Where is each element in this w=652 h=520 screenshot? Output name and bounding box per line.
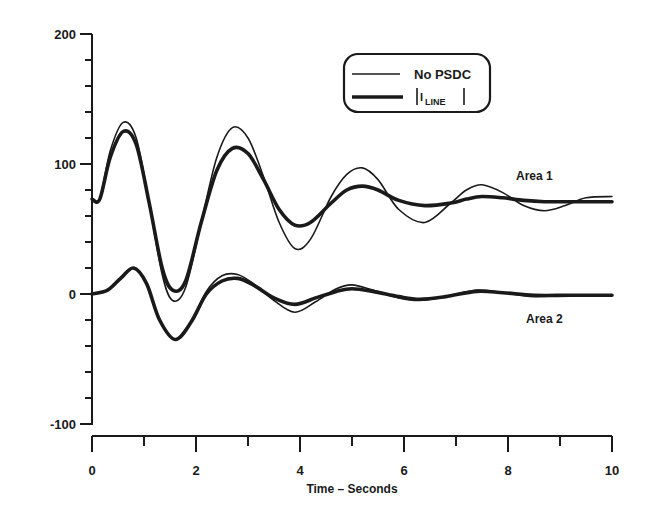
y-tick-label: 0	[69, 287, 76, 302]
x-axis-title: Time – Seconds	[306, 482, 397, 496]
x-tick-labels: 0 2 4 6 8 10	[88, 463, 619, 478]
series-line-area-1-i-line	[92, 131, 612, 291]
chart-canvas: 200 100 0 -100 0 2 4 6 8 10 Time – Secon…	[0, 0, 652, 520]
series-layer	[92, 122, 612, 340]
y-tick-label: -100	[50, 417, 76, 432]
y-axis	[80, 34, 92, 425]
y-tick-labels: 200 100 0 -100	[50, 27, 76, 432]
annotation-area-1: Area 1	[516, 169, 553, 183]
x-tick-label: 4	[296, 463, 304, 478]
x-tick-label: 8	[504, 463, 511, 478]
annotation-area-2: Area 2	[526, 312, 563, 326]
legend-label-iline-main: I	[420, 91, 423, 103]
series-line-area-2-i-line	[92, 268, 612, 340]
legend-label-iline-sub: LINE	[425, 97, 446, 107]
y-tick-label: 100	[54, 157, 76, 172]
legend: No PSDC I LINE	[344, 54, 490, 112]
x-tick-label: 10	[605, 463, 619, 478]
y-tick-label: 200	[54, 27, 76, 42]
x-tick-label: 6	[400, 463, 407, 478]
legend-label-no-psdc: No PSDC	[414, 67, 472, 82]
series-line-area-2-no-psdc	[92, 268, 612, 340]
x-tick-label: 0	[88, 463, 95, 478]
x-tick-label: 2	[192, 463, 199, 478]
series-line-area-1-no-psdc	[92, 122, 612, 301]
x-axis	[92, 436, 612, 452]
